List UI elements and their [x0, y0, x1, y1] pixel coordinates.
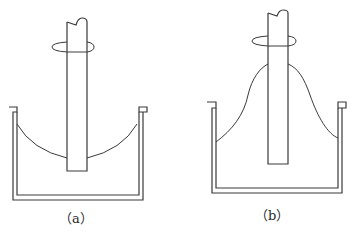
liquid-surface-b: [216, 64, 268, 142]
container-b: [207, 102, 346, 193]
panel-a: [9, 18, 147, 200]
panel-b: [207, 10, 346, 193]
liquid-surface-a-right: [87, 124, 137, 158]
rotation-arrow-icon-b: [252, 36, 296, 46]
rod-b: [268, 10, 288, 164]
caption-a: （a）: [59, 208, 93, 227]
diagram-canvas: [0, 0, 355, 237]
liquid-surface-b-right: [288, 64, 338, 138]
liquid-surface-a: [17, 124, 67, 158]
rod-a: [67, 18, 87, 171]
caption-b: （b）: [255, 205, 289, 224]
rotation-arrow-icon-a: [52, 42, 94, 52]
container-a: [9, 107, 147, 200]
